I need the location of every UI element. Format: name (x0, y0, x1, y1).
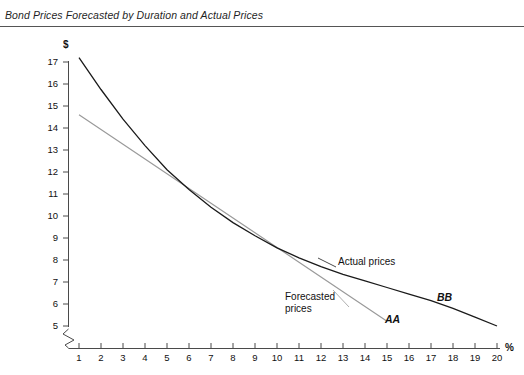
x-tick-label: 19 (467, 352, 483, 363)
x-tick-marks (79, 343, 497, 349)
y-axis-unit-label: $ (63, 39, 69, 50)
actual-prices-leader-line (318, 258, 336, 267)
x-tick-label: 11 (291, 352, 307, 363)
chart-plot-area (0, 0, 524, 375)
x-tick-label: 5 (159, 352, 175, 363)
forecasted-prices-curve-aa (79, 115, 387, 321)
actual-prices-label: Actual prices (338, 256, 395, 268)
y-tick-label: 15 (42, 100, 58, 111)
y-tick-label: 17 (42, 56, 58, 67)
y-tick-label: 8 (42, 254, 58, 265)
x-tick-label: 3 (115, 352, 131, 363)
forecasted-prices-label-line1: Forecasted (285, 291, 335, 302)
x-tick-label: 8 (225, 352, 241, 363)
x-tick-label: 9 (247, 352, 263, 363)
y-tick-label: 13 (42, 144, 58, 155)
curve-id-bb: BB (437, 291, 452, 303)
x-axis-unit-label: % (505, 342, 514, 353)
y-tick-label: 9 (42, 232, 58, 243)
y-tick-label: 10 (42, 210, 58, 221)
x-tick-label: 2 (93, 352, 109, 363)
x-tick-label: 13 (335, 352, 351, 363)
y-tick-label: 5 (42, 320, 58, 331)
x-tick-label: 17 (423, 352, 439, 363)
x-tick-label: 15 (379, 352, 395, 363)
forecasted-prices-leader-line (333, 290, 349, 307)
y-tick-marks (63, 62, 69, 326)
x-tick-label: 10 (269, 352, 285, 363)
x-tick-label: 20 (489, 352, 505, 363)
actual-prices-curve-bb (79, 58, 497, 326)
x-tick-label: 1 (71, 352, 87, 363)
x-tick-label: 18 (445, 352, 461, 363)
y-tick-label: 16 (42, 78, 58, 89)
y-tick-label: 11 (42, 188, 58, 199)
x-tick-label: 4 (137, 352, 153, 363)
x-tick-label: 7 (203, 352, 219, 363)
y-tick-label: 7 (42, 276, 58, 287)
x-tick-label: 16 (401, 352, 417, 363)
y-tick-label: 12 (42, 166, 58, 177)
y-tick-label: 6 (42, 298, 58, 309)
curve-id-aa: AA (385, 313, 400, 325)
y-axis-break-icon (63, 329, 74, 348)
forecasted-prices-label-line2: prices (285, 303, 312, 314)
forecasted-prices-label: Forecasted prices (285, 291, 335, 315)
x-tick-label: 14 (357, 352, 373, 363)
x-tick-label: 12 (313, 352, 329, 363)
y-tick-label: 14 (42, 122, 58, 133)
x-tick-label: 6 (181, 352, 197, 363)
